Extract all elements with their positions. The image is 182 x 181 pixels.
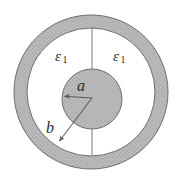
figure-container: ε1 ε1 a b [0,0,182,181]
cross-section-diagram [0,0,182,181]
inner-disk-region [62,69,122,129]
inner-disk-boundary [62,69,122,129]
